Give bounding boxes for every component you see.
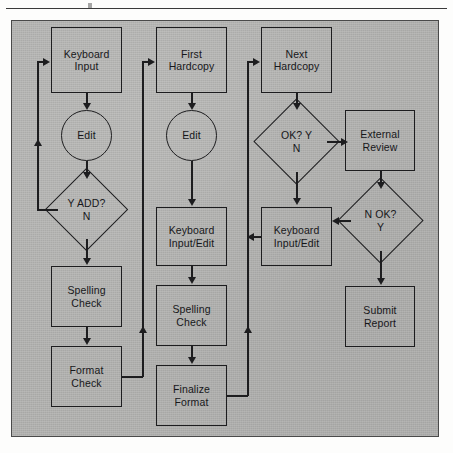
scanned-page: Keyboard Input Edit Y ADD? N [0, 0, 453, 453]
arrowhead-down-submit-report [377, 278, 385, 285]
node-label: N OK? Y [364, 208, 396, 233]
arrowhead-down-edit-1 [83, 103, 91, 110]
arrowhead-up-y-add-loop [34, 139, 42, 146]
node-decision-y-add[interactable]: Y ADD? N [57, 180, 116, 239]
node-label: Y ADD? N [68, 197, 106, 222]
arrowhead-up-format-check-loop [139, 326, 147, 333]
node-label: Keyboard Input/Edit [169, 224, 215, 249]
edge-y-add-yes-up [37, 146, 39, 210]
node-label: Edit [77, 129, 96, 141]
node-label: OK? Y N [281, 129, 312, 154]
node-first-hardcopy[interactable]: First Hardcopy [156, 27, 227, 93]
edge-format-check-riser [142, 61, 144, 333]
node-label: Submit Report [363, 304, 396, 329]
node-edit-2[interactable]: Edit [166, 110, 217, 161]
edge-format-check-right [122, 376, 143, 378]
node-edit-1[interactable]: Edit [61, 110, 112, 161]
arrowhead-down-keyboard-input-edit-2 [293, 198, 301, 205]
arrowhead-down-spelling-1 [83, 258, 91, 265]
arrowhead-right-keyboard-input [43, 58, 50, 66]
arrowhead-right-first-hardcopy [148, 58, 155, 66]
node-label: First Hardcopy [169, 48, 215, 73]
arrowhead-down-edit-2 [188, 103, 196, 110]
node-spelling-check-2[interactable]: Spelling Check [156, 285, 227, 346]
arrowhead-down-finalize-format [188, 357, 196, 364]
node-decision-ok[interactable]: OK? Y N [266, 111, 327, 172]
edge-finalize-format-riser [247, 61, 249, 333]
node-label: External Review [360, 128, 399, 153]
node-label: Spelling Check [67, 284, 105, 309]
node-label: Finalize Format [173, 383, 210, 408]
node-label: Format Check [70, 364, 104, 389]
edge-finalize-format-up [247, 333, 249, 396]
edge-format-check-up [142, 333, 144, 377]
node-label: Edit [182, 129, 201, 141]
node-label: Keyboard Input [64, 48, 110, 73]
node-format-check[interactable]: Format Check [51, 346, 122, 407]
arrowhead-down-keyboard-input-edit-1 [188, 199, 196, 206]
scan-artifact-speck [88, 3, 92, 8]
node-external-review[interactable]: External Review [345, 110, 415, 171]
arrowhead-left-loop-riser [247, 233, 254, 241]
flowchart-frame: Keyboard Input Edit Y ADD? N [11, 20, 439, 437]
node-keyboard-input[interactable]: Keyboard Input [51, 27, 122, 93]
node-keyboard-input-edit-1[interactable]: Keyboard Input/Edit [156, 207, 227, 266]
arrowhead-down-spelling-2 [188, 277, 196, 284]
node-label: Spelling Check [172, 303, 210, 328]
node-keyboard-input-edit-2[interactable]: Keyboard Input/Edit [261, 207, 332, 266]
arrowhead-right-next-hardcopy [253, 58, 260, 66]
node-next-hardcopy[interactable]: Next Hardcopy [261, 27, 332, 93]
edge-edit-2-to-keyboard-input-edit-1 [191, 161, 193, 201]
edge-y-add-yes-riser [37, 61, 39, 146]
edge-finalize-format-right [227, 395, 248, 397]
node-label: Next Hardcopy [274, 48, 320, 73]
page-top-rule [6, 8, 447, 9]
node-decision-n-ok[interactable]: N OK? Y [350, 190, 411, 251]
node-label: Keyboard Input/Edit [274, 224, 320, 249]
node-spelling-check-1[interactable]: Spelling Check [51, 266, 122, 327]
arrowhead-down-format-check [83, 338, 91, 345]
arrowhead-up-finalize-format-loop [244, 326, 252, 333]
node-finalize-format[interactable]: Finalize Format [156, 365, 227, 426]
node-submit-report[interactable]: Submit Report [345, 286, 415, 347]
